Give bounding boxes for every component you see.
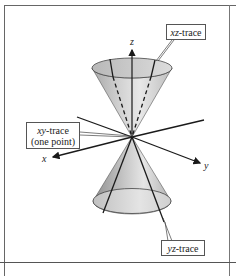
xz-trace-var: xz bbox=[170, 27, 178, 38]
xy-trace-line2: (one point) bbox=[27, 136, 79, 147]
x-axis-label: x bbox=[42, 153, 46, 164]
xz-trace-callout: xz-trace bbox=[166, 24, 206, 40]
yz-trace-var: yz bbox=[167, 243, 175, 254]
xy-trace-suffix: -trace bbox=[46, 125, 69, 136]
xy-trace-line1: xy-trace bbox=[27, 125, 79, 136]
xy-trace-callout: xy-trace (one point) bbox=[26, 122, 80, 149]
double-cone-figure: z x y xz-trace xy-trace (one point) yz-t… bbox=[0, 0, 236, 276]
z-axis-label: z bbox=[130, 36, 134, 47]
y-axis-label: y bbox=[204, 160, 208, 171]
lower-cone bbox=[93, 137, 171, 222]
xy-trace-var: xy bbox=[37, 125, 46, 136]
yz-trace-suffix: -trace bbox=[176, 243, 199, 254]
yz-trace-callout: yz-trace bbox=[161, 240, 205, 256]
xz-trace-suffix: -trace bbox=[179, 27, 202, 38]
